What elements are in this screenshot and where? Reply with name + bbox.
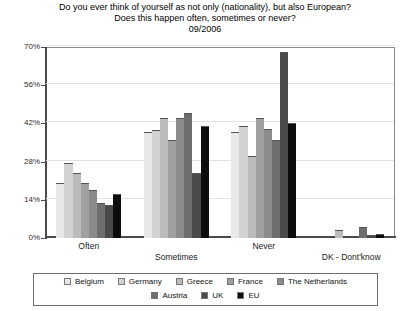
bar bbox=[231, 132, 239, 238]
y-tick-label: 28% bbox=[8, 157, 40, 166]
bar bbox=[160, 118, 168, 238]
y-tick-label: 56% bbox=[8, 80, 40, 89]
legend-swatch-icon bbox=[118, 278, 125, 285]
bar bbox=[288, 123, 296, 238]
y-tick-label: 70% bbox=[8, 42, 40, 51]
legend-item[interactable]: France bbox=[227, 277, 263, 286]
legend-label: Greece bbox=[187, 277, 213, 286]
gridline bbox=[46, 45, 394, 46]
bar bbox=[192, 173, 200, 238]
y-tick-label: 0% bbox=[8, 233, 40, 242]
legend-label: Austria bbox=[162, 291, 187, 300]
legend-label: Belgium bbox=[75, 277, 104, 286]
chart-root: Do you ever think of yourself as not onl… bbox=[0, 0, 410, 311]
legend-label: UK bbox=[212, 291, 223, 300]
bar bbox=[239, 126, 247, 238]
bars-layer bbox=[45, 47, 395, 238]
y-tick-mark bbox=[41, 238, 45, 239]
legend-row-1: BelgiumGermanyGreeceFranceThe Netherland… bbox=[34, 277, 377, 286]
legend-item[interactable]: UK bbox=[201, 291, 223, 300]
bar bbox=[73, 173, 81, 238]
bar bbox=[376, 234, 384, 238]
bar bbox=[184, 113, 192, 239]
legend-item[interactable]: The Netherlands bbox=[277, 277, 347, 286]
legend-swatch-icon bbox=[151, 292, 158, 299]
legend-swatch-icon bbox=[277, 278, 284, 285]
y-tick-label: 42% bbox=[8, 118, 40, 127]
legend-label: The Netherlands bbox=[288, 277, 347, 286]
bar bbox=[367, 235, 375, 238]
bar bbox=[113, 194, 121, 238]
y-tick-label: 14% bbox=[8, 195, 40, 204]
legend-swatch-icon bbox=[176, 278, 183, 285]
bar bbox=[152, 130, 160, 238]
bar bbox=[56, 183, 64, 238]
bar bbox=[81, 183, 89, 238]
bar bbox=[144, 132, 152, 238]
legend-swatch-icon bbox=[227, 278, 234, 285]
legend-item[interactable]: Greece bbox=[176, 277, 213, 286]
bar bbox=[264, 129, 272, 238]
bar bbox=[89, 190, 97, 238]
bar bbox=[168, 140, 176, 238]
bar bbox=[335, 230, 343, 238]
bar bbox=[105, 205, 113, 238]
bar bbox=[272, 140, 280, 238]
legend-swatch-icon bbox=[237, 292, 244, 299]
bar bbox=[201, 126, 209, 238]
legend-swatch-icon bbox=[64, 278, 71, 285]
title-line-2: Does this happen often, sometimes or nev… bbox=[0, 13, 410, 24]
bar bbox=[359, 227, 367, 238]
legend-row-2: AustriaUKEU bbox=[34, 291, 377, 300]
bar bbox=[280, 52, 288, 238]
bar bbox=[97, 203, 105, 238]
x-axis-label: DK - Dont'know bbox=[301, 252, 401, 262]
legend: BelgiumGermanyGreeceFranceThe Netherland… bbox=[33, 273, 378, 306]
bar bbox=[248, 156, 256, 238]
legend-item[interactable]: EU bbox=[237, 291, 259, 300]
title-line-1: Do you ever think of yourself as not onl… bbox=[0, 2, 410, 13]
legend-item[interactable]: Austria bbox=[151, 291, 187, 300]
x-axis-label: Often bbox=[39, 241, 139, 251]
bar bbox=[64, 163, 72, 238]
x-axis-label: Never bbox=[214, 241, 314, 251]
x-axis-label: Sometimes bbox=[126, 252, 226, 262]
legend-item[interactable]: Belgium bbox=[64, 277, 104, 286]
bar bbox=[176, 118, 184, 238]
title-line-3: 09/2006 bbox=[0, 24, 410, 35]
chart-title: Do you ever think of yourself as not onl… bbox=[0, 2, 410, 35]
bar bbox=[256, 118, 264, 238]
legend-label: EU bbox=[248, 291, 259, 300]
legend-swatch-icon bbox=[201, 292, 208, 299]
legend-item[interactable]: Germany bbox=[118, 277, 162, 286]
legend-label: France bbox=[238, 277, 263, 286]
legend-label: Germany bbox=[129, 277, 162, 286]
